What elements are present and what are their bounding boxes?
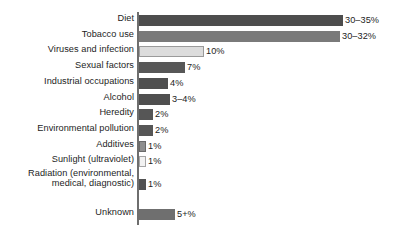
bar — [139, 15, 343, 26]
bar — [139, 141, 146, 152]
category-label: Heredity — [0, 107, 134, 117]
bar-group: 2% — [139, 125, 168, 136]
bar-value-label: 5+% — [177, 209, 196, 220]
bar — [139, 62, 185, 73]
chart-row: Heredity 2% — [0, 107, 411, 123]
category-label: Additives — [0, 139, 134, 149]
category-label: Tobacco use — [0, 29, 134, 39]
chart-row: Environmental pollution 2% — [0, 123, 411, 139]
bar-value-label: 3–4% — [172, 94, 196, 105]
category-label: Radiation (environmental, medical, diagn… — [0, 168, 134, 189]
chart-row: Sexual factors 7% — [0, 60, 411, 76]
bar-value-label: 1% — [148, 141, 161, 152]
chart-row: Industrial occupations 4% — [0, 76, 411, 92]
bar-value-label: 2% — [155, 125, 168, 136]
bar-value-label: 7% — [187, 62, 200, 73]
bar-value-label: 4% — [170, 78, 183, 89]
bar — [139, 125, 153, 136]
bar-value-label: 1% — [148, 156, 161, 167]
chart-row: Radiation (environmental, medical, diagn… — [0, 177, 411, 193]
category-label: Environmental pollution — [0, 123, 134, 133]
bar-group: 1% — [139, 156, 161, 167]
bar-value-label: 2% — [155, 109, 168, 120]
bar-value-label: 30–35% — [345, 15, 379, 26]
category-label: Industrial occupations — [0, 76, 134, 86]
bar-group: 5+% — [139, 209, 196, 220]
bar — [139, 209, 175, 220]
bar-group: 1% — [139, 179, 161, 190]
bar-value-label: 30–32% — [342, 31, 376, 42]
chart-row: Additives 1% — [0, 139, 411, 155]
bar — [139, 109, 153, 120]
horizontal-bar-chart: Diet 30–35% Tobacco use 30–32% Viruses a… — [0, 0, 411, 241]
category-label: Sexual factors — [0, 60, 134, 70]
bar-group: 4% — [139, 78, 183, 89]
bar-group: 7% — [139, 62, 200, 73]
bar-group: 1% — [139, 141, 161, 152]
category-label: Unknown — [0, 207, 134, 217]
bar-group: 10% — [139, 46, 225, 57]
bar-value-label: 10% — [206, 46, 225, 57]
bar — [139, 156, 146, 167]
chart-row: Tobacco use 30–32% — [0, 29, 411, 45]
category-label: Diet — [0, 13, 134, 23]
bar-group: 3–4% — [139, 94, 196, 105]
bar — [139, 31, 340, 42]
chart-row: Alcohol 3–4% — [0, 92, 411, 108]
chart-row: Diet 30–35% — [0, 13, 411, 29]
bar — [139, 46, 204, 57]
bar — [139, 78, 168, 89]
bar — [139, 179, 146, 190]
category-label: Alcohol — [0, 92, 134, 102]
chart-row: Viruses and infection 10% — [0, 44, 411, 60]
bar-group: 2% — [139, 109, 168, 120]
bar — [139, 94, 170, 105]
bar-group: 30–35% — [139, 15, 379, 26]
chart-row: Unknown 5+% — [0, 207, 411, 223]
bar-value-label: 1% — [148, 179, 161, 190]
category-label: Viruses and infection — [0, 44, 134, 54]
category-label: Sunlight (ultraviolet) — [0, 154, 134, 164]
bar-group: 30–32% — [139, 31, 376, 42]
